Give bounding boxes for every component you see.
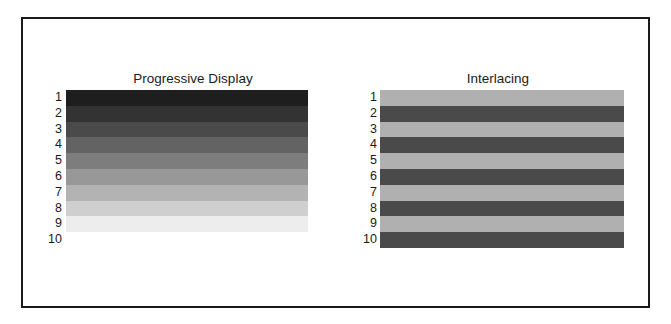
- scan-line-stripe: [66, 201, 308, 217]
- scan-line-stripe: [380, 153, 624, 169]
- scan-line-stripe: [66, 106, 308, 122]
- scan-line-stripe: [66, 122, 308, 138]
- row-label: 4: [358, 137, 377, 153]
- scan-line-stripe: [380, 169, 624, 185]
- row-label: 2: [44, 106, 62, 122]
- progressive-stripes: [66, 90, 308, 232]
- row-label: 6: [358, 169, 377, 185]
- scan-line-stripe: [66, 90, 308, 106]
- interlacing-title: Interlacing: [460, 71, 536, 86]
- scan-line-stripe: [66, 153, 308, 169]
- scan-line-stripe: [380, 137, 624, 153]
- row-label: 9: [44, 216, 62, 232]
- row-label: 9: [358, 216, 377, 232]
- progressive-row-labels: 12345678910: [44, 90, 62, 248]
- row-label: 6: [44, 169, 62, 185]
- scan-line-stripe: [66, 185, 308, 201]
- scan-line-stripe: [380, 185, 624, 201]
- row-label: 10: [44, 232, 62, 248]
- scan-line-stripe: [380, 216, 624, 232]
- row-label: 5: [44, 153, 62, 169]
- progressive-display-title: Progressive Display: [132, 71, 254, 86]
- row-label: 7: [44, 185, 62, 201]
- scan-line-stripe: [380, 106, 624, 122]
- row-label: 8: [44, 201, 62, 217]
- row-label: 1: [358, 90, 377, 106]
- scan-line-stripe: [66, 137, 308, 153]
- interlacing-row-labels: 12345678910: [358, 90, 377, 248]
- scan-line-stripe: [380, 90, 624, 106]
- row-label: 1: [44, 90, 62, 106]
- row-label: 3: [44, 122, 62, 138]
- row-label: 3: [358, 122, 377, 138]
- scan-line-stripe: [66, 169, 308, 185]
- row-label: 10: [358, 232, 377, 248]
- row-label: 8: [358, 201, 377, 217]
- scan-line-stripe: [380, 201, 624, 217]
- row-label: 5: [358, 153, 377, 169]
- row-label: 2: [358, 106, 377, 122]
- scan-line-stripe: [66, 216, 308, 232]
- scan-line-stripe: [380, 232, 624, 248]
- interlacing-stripes: [380, 90, 624, 248]
- scan-line-stripe: [380, 122, 624, 138]
- row-label: 7: [358, 185, 377, 201]
- row-label: 4: [44, 137, 62, 153]
